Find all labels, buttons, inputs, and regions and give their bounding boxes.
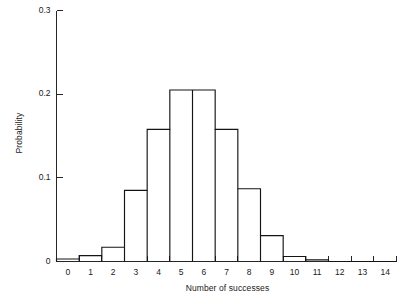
histogram-outline — [57, 90, 397, 262]
histogram-bars — [57, 90, 397, 262]
x-tick-label: 14 — [370, 267, 400, 277]
y-tick-label: 0.3 — [9, 5, 51, 15]
y-tick-label: 0.1 — [9, 172, 51, 182]
tick-marks-group — [57, 11, 397, 262]
histogram-plot — [0, 0, 410, 306]
axes-group — [57, 11, 397, 262]
y-tick-label: 0 — [9, 256, 51, 266]
y-tick-label: 0.2 — [9, 88, 51, 98]
chart-figure: Probability Number of successes 00.10.20… — [0, 0, 410, 306]
x-axis-label: Number of successes — [55, 283, 400, 293]
